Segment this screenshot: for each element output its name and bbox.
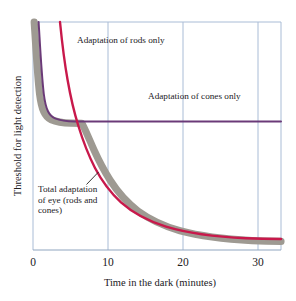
xtick-label-30: 30 [252,256,264,268]
y-axis-title: Threshold for light detection [12,75,23,196]
xtick-label-10: 10 [102,256,114,268]
xtick-label-0: 0 [30,256,36,268]
label-total-line-1: Total adaptation [38,184,98,194]
xtick-label-20: 20 [177,256,189,268]
chart-svg: Adaptation of rods only Adaptation of co… [0,0,296,301]
label-rods: Adaptation of rods only [77,35,165,45]
label-total-line-2: of eye (rods and [38,195,98,205]
plot-background [33,22,281,250]
x-axis-title: Time in the dark (minutes) [104,277,217,289]
dark-adaptation-chart: Adaptation of rods only Adaptation of co… [0,0,296,301]
label-cones: Adaptation of cones only [148,91,241,101]
label-total-line-3: cones) [38,205,62,215]
